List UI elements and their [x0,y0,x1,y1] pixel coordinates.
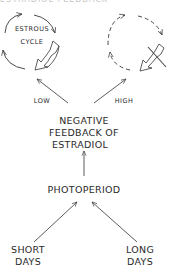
long-days-line2: DAYS [120,256,160,267]
feedback-line2: FEEDBACK OF [44,127,124,138]
estrous-cycle-blocked [108,15,166,71]
short-days-line1: SHORT [8,244,48,255]
high-label: HIGH [110,96,138,106]
photoperiod-label: PHOTOPERIOD [40,184,128,195]
short-days-line2: DAYS [8,256,48,267]
long-days-line1: LONG [120,244,160,255]
low-label: LOW [29,96,55,106]
feedback-line1: NEGATIVE [44,115,124,126]
long-days-arrow [92,202,137,242]
estrous-label-line1: ESTROUS [10,24,54,34]
short-days-arrow [34,202,77,242]
estrous-label-line2: CYCLE [10,37,54,47]
feedback-line3: ESTRADIOL [40,139,120,150]
